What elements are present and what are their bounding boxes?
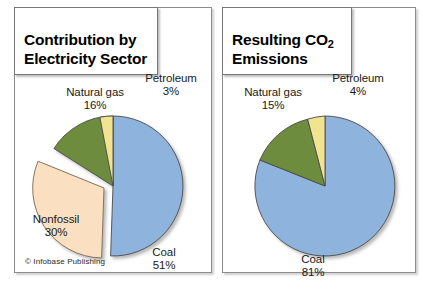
- pie-slice-nonfossil: [33, 161, 104, 258]
- label-natural-gas-left: Natural gas 16%: [53, 86, 137, 113]
- pie-right-group: [255, 116, 395, 256]
- copyright-credit: © Infobase Publishing: [25, 257, 105, 266]
- label-nonfossil-left: Nonfossil 30%: [17, 213, 95, 240]
- panel-contribution-by-electricity-sector: Contribution by Electricity Sector: [14, 7, 212, 273]
- label-coal-right: Coal 81%: [283, 253, 343, 280]
- panel-title-left-text: Contribution by Electricity Sector: [24, 31, 147, 66]
- figure-root: Contribution by Electricity Sector: [0, 0, 423, 290]
- label-petroleum-right: Petroleum 4%: [319, 72, 397, 99]
- panel-title-right: Resulting CO2Emissions: [222, 7, 352, 75]
- pie-slice-coal: [111, 116, 183, 256]
- pie-left-exploded-group: [33, 161, 104, 258]
- label-petroleum-left: Petroleum 3%: [133, 72, 209, 99]
- pie-chart-co2-emissions: [241, 96, 409, 246]
- panel-title-left: Contribution by Electricity Sector: [14, 7, 158, 75]
- co2-subscript: 2: [328, 38, 334, 50]
- pie-right-svg: [241, 96, 409, 246]
- panel-resulting-co2-emissions: Resulting CO2Emissions Natur: [222, 7, 416, 273]
- label-natural-gas-right: Natural gas 15%: [231, 86, 315, 113]
- label-coal-left: Coal 51%: [133, 246, 195, 273]
